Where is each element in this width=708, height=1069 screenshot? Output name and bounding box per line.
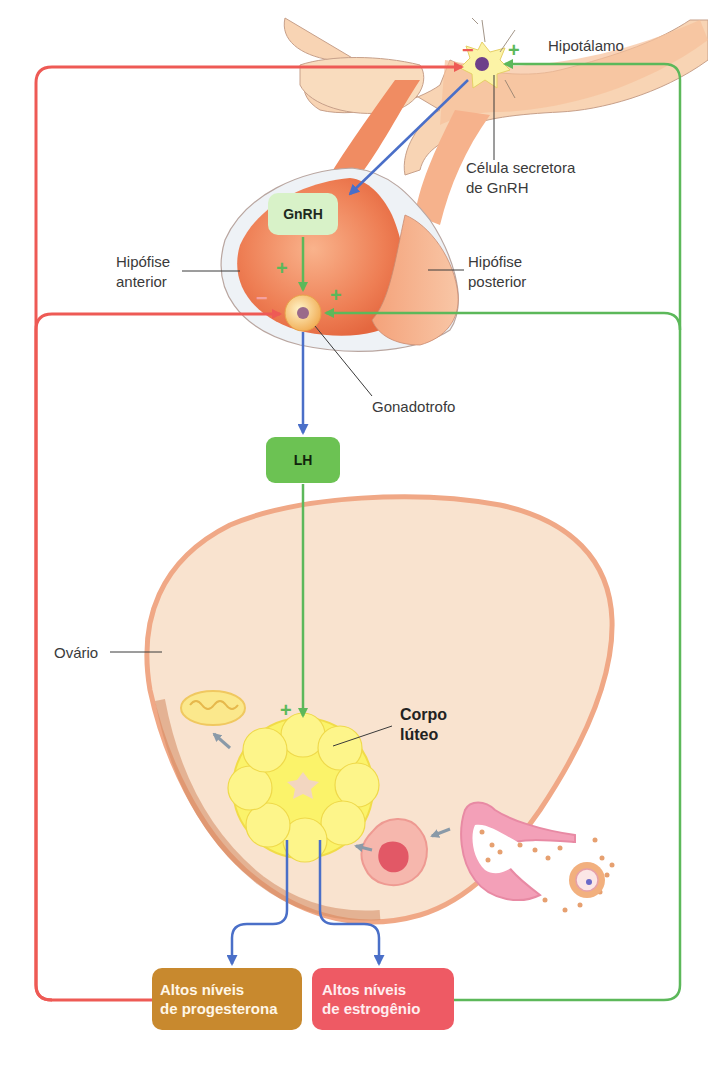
anterior-pituitary-label-line1: Hipófise: [116, 252, 170, 271]
corpus-luteum-label-line2: lúteo: [400, 725, 438, 745]
progesterone-box-line2: de progesterona: [160, 999, 278, 1018]
ovulating-follicle: [461, 803, 614, 913]
hypothalamus-label: Hipotálamo: [548, 36, 624, 55]
progesterone-box-line1: Altos níveis: [160, 980, 244, 999]
corpus-albicans: [181, 691, 245, 725]
gnrh-box: GnRH: [268, 193, 338, 235]
gonadotroph-cell: [285, 295, 321, 331]
gonadotroph-minus-sign: −: [256, 288, 268, 308]
hypothalamus-minus-sign: −: [462, 40, 474, 60]
diagram-stage: − + + − + + Hipotálamo Célula secretora …: [0, 0, 708, 1069]
posterior-pituitary-label-line2: posterior: [468, 272, 526, 291]
gonadotroph-label: Gonadotrofo: [372, 397, 455, 416]
lh-box-label: LH: [294, 452, 313, 468]
estrogen-box-line1: Altos níveis: [322, 980, 406, 999]
lh-plus-sign: +: [280, 700, 292, 720]
estrogen-box: Altos níveis de estrogênio: [312, 968, 454, 1030]
progesterone-box: Altos níveis de progesterona: [152, 968, 302, 1030]
posterior-pituitary-label-line1: Hipófise: [468, 252, 522, 271]
gnrh-cell-label-line2: de GnRH: [466, 178, 529, 197]
lh-box: LH: [266, 437, 340, 483]
ovary-label: Ovário: [54, 643, 98, 662]
diagram-illustration: [0, 0, 708, 1069]
hypothalamus-plus-sign: +: [508, 40, 520, 60]
estrogen-box-line2: de estrogênio: [322, 999, 420, 1018]
gnrh-box-label: GnRH: [283, 206, 323, 222]
gnrh-cell-label-line1: Célula secretora: [466, 158, 575, 177]
corpus-luteum-label-line1: Corpo: [400, 705, 447, 725]
gnrh-plus-sign: +: [276, 258, 288, 278]
gonadotroph-plus-sign: +: [330, 285, 342, 305]
anterior-pituitary-label-line2: anterior: [116, 272, 167, 291]
